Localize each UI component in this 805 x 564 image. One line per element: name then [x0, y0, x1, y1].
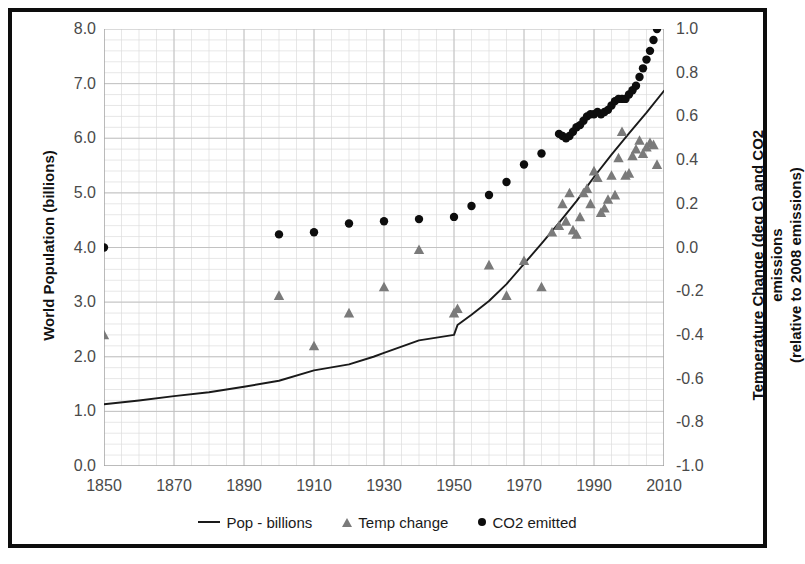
y-axis-left-tick-label: 8.0 [74, 20, 96, 38]
y-axis-left-tick-label: 4.0 [74, 239, 96, 257]
y-axis-left-tick-label: 7.0 [74, 75, 96, 93]
y-axis-left-tick-label: 0.0 [74, 457, 96, 475]
y-axis-right-title-line2: (relative to 2008 emissions) [786, 100, 805, 430]
y-axis-right-ticks: -1.0-0.8-0.6-0.4-0.20.00.20.40.60.81.0 [676, 29, 736, 466]
x-axis-ticks: 185018701890191019301950197019902010 [104, 475, 664, 499]
x-axis-tick-label: 1890 [226, 477, 262, 495]
chart-frame: 0.01.02.03.04.05.06.07.08.0 World Popula… [8, 8, 767, 548]
legend-circle-icon [478, 518, 486, 526]
y-axis-left-tick-label: 5.0 [74, 184, 96, 202]
y-axis-left-title: World Population (billions) [40, 106, 57, 386]
x-axis-tick-label: 1910 [296, 477, 332, 495]
y-axis-right-tick-label: -1.0 [676, 457, 704, 475]
y-axis-left-tick-label: 3.0 [74, 293, 96, 311]
y-axis-right-tick-label: 0.6 [676, 107, 698, 125]
y-axis-right-title: Temperature Change (deg C) and CO2 emiss… [749, 100, 805, 430]
x-axis-tick-label: 1950 [436, 477, 472, 495]
plot-svg [104, 29, 664, 466]
y-axis-right-tick-label: -0.4 [676, 326, 704, 344]
y-axis-right-tick-label: -0.2 [676, 282, 704, 300]
legend-triangle-icon [342, 518, 352, 527]
legend-label: CO2 emitted [492, 514, 576, 531]
x-axis-tick-label: 2010 [646, 477, 682, 495]
x-axis-tick-label: 1930 [366, 477, 402, 495]
legend-line-icon [198, 521, 220, 523]
y-axis-right-tick-label: 0.4 [676, 151, 698, 169]
y-axis-right-title-line1: Temperature Change (deg C) and CO2 emiss… [749, 100, 787, 430]
legend-label: Pop - billions [226, 514, 312, 531]
y-axis-right-tick-label: 0.8 [676, 64, 698, 82]
y-axis-right-tick-label: 0.2 [676, 195, 698, 213]
y-axis-left-tick-label: 2.0 [74, 348, 96, 366]
x-axis-tick-label: 1990 [576, 477, 612, 495]
chart-canvas: 0.01.02.03.04.05.06.07.08.0 World Popula… [12, 12, 763, 544]
legend-item[interactable]: Temp change [342, 514, 448, 531]
chart-legend: Pop - billionsTemp changeCO2 emitted [12, 507, 763, 537]
legend-item[interactable]: Pop - billions [198, 514, 312, 531]
y-axis-right-tick-label: -0.8 [676, 413, 704, 431]
y-axis-right-tick-label: 1.0 [676, 20, 698, 38]
y-axis-left-tick-label: 1.0 [74, 402, 96, 420]
plot-area [104, 29, 664, 466]
x-axis-tick-label: 1970 [506, 477, 542, 495]
x-axis-tick-label: 1870 [156, 477, 192, 495]
y-axis-left-tick-label: 6.0 [74, 129, 96, 147]
x-axis-tick-label: 1850 [86, 477, 122, 495]
y-axis-right-tick-label: -0.6 [676, 370, 704, 388]
legend-item[interactable]: CO2 emitted [478, 514, 576, 531]
legend-label: Temp change [358, 514, 448, 531]
y-axis-right-tick-label: 0.0 [676, 239, 698, 257]
